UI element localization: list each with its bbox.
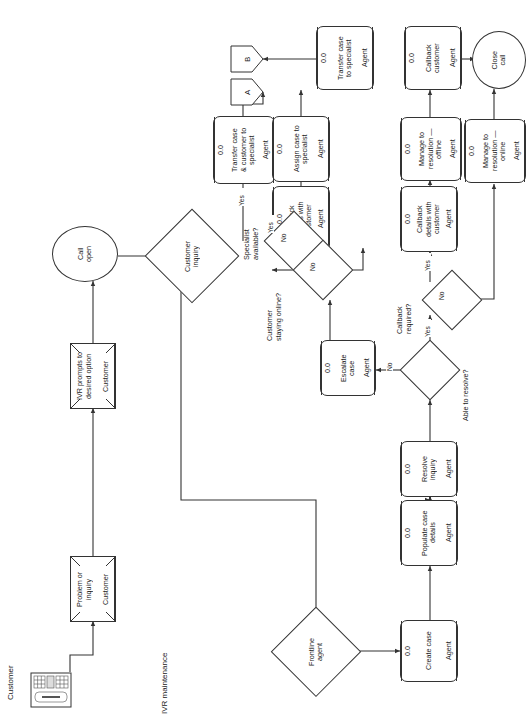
process-title: Resolve inquiry: [415, 442, 443, 496]
process-id: 0.0: [317, 27, 331, 89]
decision-label-specialist-available: Specialist available?: [243, 188, 260, 260]
edge-label-staying-online-yes: Yes: [267, 215, 274, 233]
process-role: Agent: [315, 117, 329, 181]
process-resolve-inquiry[interactable]: 0.0 Resolve inquiry Agent: [400, 441, 458, 497]
process-escalate-case[interactable]: 0.0 Escalate case Agent: [320, 340, 376, 396]
process-title: Manage to resolution — online: [479, 120, 511, 182]
process-create-case[interactable]: 0.0 Create case Agent: [400, 620, 458, 682]
process-manage-to-resolution-online[interactable]: 0.0 Manage to resolution — online Agent: [464, 119, 526, 183]
process-title: Callback details with customer: [415, 187, 443, 251]
process-callback-details-with-customer-2[interactable]: 0.0 Callback details with customer Agent: [400, 186, 458, 252]
process-populate-case-details[interactable]: 0.0 Populate case details Agent: [400, 500, 458, 566]
process-role: Agent: [443, 187, 457, 251]
process-id: 0.0: [405, 27, 419, 89]
process-role: Agent: [447, 27, 461, 89]
process-title: Problem or inquiry: [71, 557, 98, 621]
decision-label: Frontline agent: [272, 608, 360, 696]
process-id: 0.0: [401, 442, 415, 496]
terminator-call-open[interactable]: Call open: [52, 226, 118, 282]
process-role: Agent: [443, 621, 457, 681]
decision-customer-inquiry[interactable]: Customer inquiry: [146, 210, 238, 302]
offpage-connector-a[interactable]: A: [230, 78, 264, 106]
process-manage-to-resolution-offline[interactable]: 0.0 Manage to resolution — offline Agent: [400, 117, 462, 181]
process-id: 0.0: [321, 341, 335, 395]
decision-label-callback-required: Callback required?: [396, 270, 413, 334]
process-title: Transfer case & customer to specialist: [228, 117, 260, 183]
lane-caption-customer: Customer: [6, 640, 16, 700]
edge-label-specialist-no: No: [280, 228, 287, 242]
process-problem-or-inquiry[interactable]: Problem or inquiry Customer: [70, 556, 116, 622]
edge-label-resolve-yes: Yes: [424, 319, 431, 337]
process-role: Agent: [511, 120, 525, 182]
process-title: Populate case details: [415, 501, 443, 565]
edge-label-staying-online-no: No: [309, 257, 316, 271]
lane-caption-ivr-maintenance: IVR maintenance: [160, 628, 170, 714]
process-title: Callback customer: [419, 27, 447, 89]
decision-able-to-resolve[interactable]: [401, 341, 459, 399]
decision-callback-required[interactable]: [423, 271, 481, 329]
decision-label-able-to-resolve: Able to resolve?: [462, 347, 471, 421]
process-id: 0.0: [465, 120, 479, 182]
process-id: 0.0: [401, 501, 415, 565]
offpage-connector-label: A: [230, 78, 264, 106]
offpage-connector-label: B: [230, 45, 264, 73]
offpage-connector-b[interactable]: B: [230, 45, 264, 73]
process-role: Agent: [359, 27, 373, 89]
diamond-shape: [400, 340, 461, 401]
process-id: 0.0: [214, 117, 228, 183]
edge-label-callback-yes: Yes: [424, 253, 431, 271]
terminator-close-call[interactable]: Close call: [472, 31, 526, 89]
process-id: 0.0: [273, 117, 287, 181]
process-transfer-case-to-specialist[interactable]: 0.0 Transfer case to specialist Agent: [316, 26, 374, 90]
decision-label: Customer inquiry: [146, 210, 238, 302]
process-role: Customer: [98, 344, 115, 408]
process-id: 0.0: [401, 118, 415, 180]
terminator-label: Call open: [77, 246, 94, 262]
process-title: Manage to resolution — offline: [415, 118, 447, 180]
process-id: 0.0: [401, 187, 415, 251]
process-role: Agent: [361, 341, 375, 395]
process-id: 0.0: [401, 621, 415, 681]
process-role: Agent: [443, 501, 457, 565]
terminator-label: Close call: [491, 51, 508, 69]
process-role: Agent: [443, 442, 457, 496]
process-role: Agent: [447, 118, 461, 180]
process-title: IVR prompts to desired option: [71, 344, 98, 408]
decision-frontline-agent[interactable]: Frontline agent: [272, 608, 360, 696]
process-title: Assign case to specialist: [287, 117, 315, 181]
flowchart-canvas: Customer IVR maintenance: [0, 0, 529, 720]
process-title: Escalate case: [335, 341, 361, 395]
edge-label-callback-no: No: [438, 286, 445, 300]
decision-label-customer-staying-online: Customer staying online?: [266, 255, 283, 341]
edge-label-specialist-yes: Yes: [238, 188, 245, 206]
process-assign-case-to-specialist[interactable]: 0.0 Assign case to specialist Agent: [272, 116, 330, 182]
diamond-shape: [293, 240, 354, 301]
process-transfer-case-and-customer-to-specialist[interactable]: 0.0 Transfer case & customer to speciali…: [213, 116, 275, 184]
decision-customer-staying-online[interactable]: [294, 241, 352, 299]
process-title: Transfer case to specialist: [331, 27, 359, 89]
process-role: Customer: [98, 557, 115, 621]
process-ivr-prompts-to-desired-option[interactable]: IVR prompts to desired option Customer: [70, 343, 116, 409]
keyboard-icon: [30, 672, 72, 708]
process-callback-customer[interactable]: 0.0 Callback customer Agent: [404, 26, 462, 90]
process-title: Create case: [415, 621, 443, 681]
edge-label-resolve-no: No: [386, 357, 393, 371]
